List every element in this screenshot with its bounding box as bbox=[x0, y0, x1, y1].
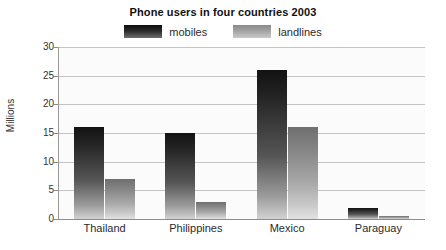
legend-item-landlines: landlines bbox=[233, 25, 321, 38]
chart-title: Phone users in four countries 2003 bbox=[0, 6, 446, 18]
y-tick-label: 5 bbox=[32, 184, 54, 195]
chart-legend: mobiles landlines bbox=[0, 25, 446, 38]
x-axis-labels: ThailandPhilippinesMexicoParaguay bbox=[59, 222, 424, 242]
bar-landlines-mexico bbox=[288, 127, 318, 219]
bar-group bbox=[257, 47, 318, 219]
y-axis-ticks: 302520151050 bbox=[28, 47, 54, 219]
y-tick-label: 15 bbox=[32, 127, 54, 138]
bar-mobiles-paraguay bbox=[348, 208, 378, 219]
bar-mobiles-philippines bbox=[165, 133, 195, 219]
y-tick-label: 20 bbox=[32, 98, 54, 109]
y-tick-label: 25 bbox=[32, 70, 54, 81]
y-tick-label: 10 bbox=[32, 156, 54, 167]
x-tick-label: Mexico bbox=[242, 222, 333, 234]
bars-layer bbox=[59, 47, 424, 219]
bar-landlines-thailand bbox=[105, 179, 135, 219]
x-tick-label: Thailand bbox=[59, 222, 150, 234]
bar-landlines-paraguay bbox=[379, 216, 409, 219]
legend-label-landlines: landlines bbox=[278, 26, 321, 38]
bar-group bbox=[74, 47, 135, 219]
x-tick-label: Paraguay bbox=[333, 222, 424, 234]
x-tick-label: Philippines bbox=[150, 222, 241, 234]
bar-group bbox=[165, 47, 226, 219]
legend-swatch-landlines-icon bbox=[233, 25, 271, 38]
y-tick-label: 30 bbox=[32, 41, 54, 52]
legend-swatch-mobiles-icon bbox=[124, 25, 162, 38]
y-axis-title: Millions bbox=[5, 99, 16, 132]
bar-chart: Phone users in four countries 2003 mobil… bbox=[0, 0, 446, 250]
y-tick-label: 0 bbox=[32, 213, 54, 224]
bar-landlines-philippines bbox=[196, 202, 226, 219]
bar-mobiles-thailand bbox=[74, 127, 104, 219]
bar-group bbox=[348, 47, 409, 219]
legend-item-mobiles: mobiles bbox=[124, 25, 207, 38]
legend-label-mobiles: mobiles bbox=[169, 26, 207, 38]
bar-mobiles-mexico bbox=[257, 70, 287, 219]
